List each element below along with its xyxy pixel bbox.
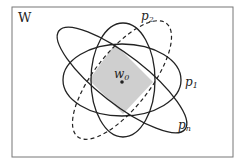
frame-label: W (18, 10, 32, 25)
diagram-canvas: W w0 p2 p1 pn (0, 0, 245, 166)
